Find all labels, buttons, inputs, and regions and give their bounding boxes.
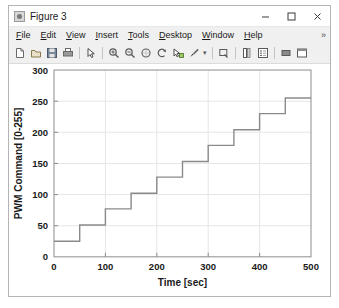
print-figure-icon[interactable] xyxy=(60,46,75,61)
toolbar-separator xyxy=(235,47,236,59)
x-axis-title: Time [sec] xyxy=(158,277,207,288)
y-tick-label: 200 xyxy=(32,127,48,138)
menu-item-view[interactable]: View xyxy=(61,27,90,43)
menu-file-rest: ile xyxy=(22,30,31,40)
menu-item-insert[interactable]: Insert xyxy=(90,27,123,43)
menu-item-desktop[interactable]: Desktop xyxy=(154,27,197,43)
x-tick-label: 400 xyxy=(252,261,268,272)
zoom-out-icon[interactable] xyxy=(122,46,137,61)
hide-plot-tools-icon[interactable] xyxy=(278,46,293,61)
y-tick-label: 150 xyxy=(32,158,48,169)
menu-bar: File Edit View Insert Tools Desktop Wind… xyxy=(9,27,330,43)
toolbar-separator xyxy=(102,47,103,59)
toolbar-separator xyxy=(274,47,275,59)
menu-tools-rest: ools xyxy=(132,30,149,40)
y-tick-label: 0 xyxy=(43,251,48,262)
toolbar-separator xyxy=(79,47,80,59)
x-tick-label: 100 xyxy=(97,261,113,272)
x-tick-label: 0 xyxy=(51,261,56,272)
window-title: Figure 3 xyxy=(30,11,252,22)
data-series-line xyxy=(54,98,311,241)
y-tick-label: 100 xyxy=(32,189,48,200)
plot-canvas[interactable]: 0100200300400500050100150200250300Time [… xyxy=(9,64,330,296)
y-tick-label: 250 xyxy=(32,96,48,107)
show-plot-tools-icon[interactable] xyxy=(294,46,309,61)
close-icon[interactable] xyxy=(304,6,330,26)
matlab-figure-icon xyxy=(14,11,25,22)
window-controls xyxy=(252,6,330,26)
menu-help-rest: elp xyxy=(251,30,263,40)
open-file-icon[interactable] xyxy=(28,46,43,61)
link-plot-icon[interactable] xyxy=(216,46,231,61)
toolbar-separator xyxy=(212,47,213,59)
menu-item-help[interactable]: Help xyxy=(239,27,268,43)
brush-dropdown-icon[interactable]: ▾ xyxy=(202,49,208,57)
y-tick-label: 50 xyxy=(37,220,48,231)
brush-icon[interactable] xyxy=(186,46,201,61)
menu-window-rest: indow xyxy=(210,30,234,40)
pointer-icon[interactable] xyxy=(83,46,98,61)
data-cursor-icon[interactable] xyxy=(170,46,185,61)
menu-view-rest: iew xyxy=(72,30,86,40)
save-figure-icon[interactable] xyxy=(44,46,59,61)
x-tick-label: 200 xyxy=(149,261,165,272)
menu-item-file[interactable]: File xyxy=(11,27,36,43)
zoom-in-icon[interactable] xyxy=(106,46,121,61)
minimize-icon[interactable] xyxy=(252,6,278,26)
title-bar: Figure 3 xyxy=(9,6,330,27)
menu-edit-rest: dit xyxy=(47,30,57,40)
y-tick-label: 300 xyxy=(32,65,48,76)
x-tick-label: 300 xyxy=(200,261,216,272)
menu-item-window[interactable]: Window xyxy=(197,27,239,43)
maximize-icon[interactable] xyxy=(278,6,304,26)
menu-insert-rest: nsert xyxy=(98,30,118,40)
y-axis-title: PWM Command [0-255] xyxy=(13,108,24,220)
toolbar: ▾ xyxy=(9,43,330,64)
insert-colorbar-icon[interactable] xyxy=(239,46,254,61)
menu-overflow-icon[interactable]: » xyxy=(321,30,326,40)
rotate-3d-icon[interactable] xyxy=(154,46,169,61)
menu-item-tools[interactable]: Tools xyxy=(123,27,154,43)
pan-icon[interactable] xyxy=(138,46,153,61)
x-tick-label: 500 xyxy=(303,261,319,272)
menu-item-edit[interactable]: Edit xyxy=(36,27,62,43)
pwm-command-chart: 0100200300400500050100150200250300Time [… xyxy=(9,64,330,296)
insert-legend-icon[interactable] xyxy=(255,46,270,61)
new-figure-icon[interactable] xyxy=(12,46,27,61)
figure-window: Figure 3 File Edit View Insert Tools Des… xyxy=(8,5,331,297)
menu-desktop-rest: esktop xyxy=(165,30,192,40)
